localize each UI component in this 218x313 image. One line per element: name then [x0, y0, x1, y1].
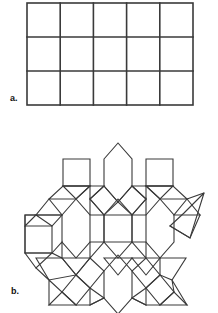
hexagon-mid-left	[62, 199, 90, 258]
triangle-center-right-lower	[132, 242, 146, 258]
triangle-left-lower	[25, 253, 52, 268]
rhombitrihexagonal-tiling	[25, 143, 204, 313]
square-top-left	[63, 159, 90, 186]
square-left	[25, 226, 52, 253]
square-bottom-left-slant	[36, 258, 76, 280]
triangle-bottom-left	[62, 258, 90, 275]
square-center	[104, 215, 132, 242]
triangle-center-left-lower	[90, 242, 104, 258]
triangle-bottom-far-left	[49, 292, 76, 305]
triangle-bottom-inner-left	[90, 288, 104, 305]
triangle-left-upper	[36, 199, 62, 215]
hexagon-top-center	[104, 143, 132, 202]
figure-a-label: a.	[10, 94, 18, 103]
square-bottom-right-slant	[160, 258, 186, 280]
hexagon-mid-right	[146, 199, 174, 258]
triangle-center-left-upper	[90, 199, 104, 215]
triangle-bottom-inner-right	[132, 288, 146, 305]
triangle-top-right	[146, 186, 173, 199]
grid-outline	[27, 3, 193, 105]
figure-a-canvas	[0, 0, 218, 118]
triangle-left-mid-lower	[52, 242, 62, 258]
figure-b	[0, 118, 218, 313]
triangle-center-right-upper	[132, 199, 146, 215]
square-diag-top-left	[90, 186, 118, 215]
triangle-top-center-right	[132, 186, 146, 199]
figure-b-label: b.	[11, 287, 19, 296]
figure-a	[0, 0, 218, 118]
square-bottom-left	[76, 258, 104, 288]
figure-b-canvas	[0, 118, 218, 313]
triangle-left-corner	[25, 215, 36, 226]
square-bottom-far-left	[62, 275, 90, 305]
square-diag-top-right	[118, 186, 146, 215]
square-grid	[27, 3, 193, 105]
square-top-right	[146, 159, 173, 186]
triangle-left-mid-upper	[36, 215, 62, 226]
triangle-top-left	[63, 186, 90, 199]
triangle-top-center-left	[90, 186, 104, 199]
hexagon-center	[104, 199, 132, 258]
